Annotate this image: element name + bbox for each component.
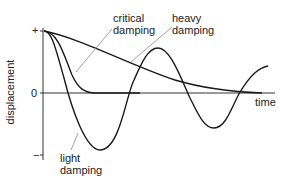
light-damping-label-line1: light bbox=[60, 152, 80, 164]
critical-damping-curve bbox=[44, 31, 140, 93]
heavy-damping-label-line2: damping bbox=[172, 24, 214, 36]
light-leader-line bbox=[71, 133, 78, 150]
y-tick-label-plus: + bbox=[32, 25, 38, 36]
y-tick-label-zero: 0 bbox=[31, 88, 37, 99]
y-tick-label-minus: − bbox=[33, 150, 39, 161]
y-axis-label: displacement bbox=[4, 60, 16, 125]
critical-damping-label-line2: damping bbox=[113, 24, 155, 36]
critical-damping-label-line1: critical bbox=[113, 12, 144, 24]
light-damping-label-line2: damping bbox=[60, 164, 102, 176]
heavy-damping-label-line1: heavy bbox=[172, 12, 201, 24]
x-axis-label: time bbox=[255, 96, 276, 108]
critical-leader-line bbox=[76, 29, 112, 72]
